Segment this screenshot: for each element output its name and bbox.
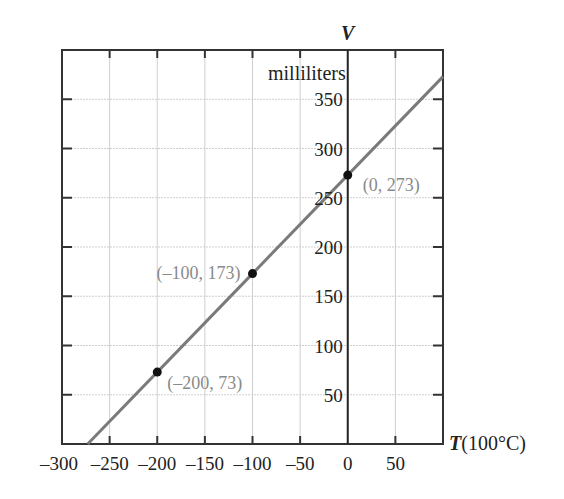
x-tick-label: –150 [185,453,224,474]
data-point [343,171,352,180]
y-tick-label: 350 [314,89,343,110]
chart: (–200, 73)(–100, 173)(0, 273) –300–250–2… [0,0,564,499]
y-tick-label: 200 [314,237,343,258]
x-axis-title: T(100°C) [449,432,526,455]
x-tick-label: 0 [343,453,353,474]
x-tick-label: 50 [386,453,405,474]
y-tick-label: 250 [314,188,343,209]
x-tick-label: –100 [233,453,272,474]
y-tick-labels: 50100150200250300350 [314,89,343,406]
data-line [88,77,443,444]
x-tick-labels: –300–250–200–150–100–50050 [39,453,405,474]
point-label: (–200, 73) [167,373,242,394]
point-label: (–100, 173) [157,263,241,284]
y-tick-label: 150 [314,286,343,307]
y-tick-label: 300 [314,139,343,160]
x-axis-var: T [449,432,462,454]
y-tick-label: 100 [314,336,343,357]
grid-lines [62,50,443,444]
x-tick-label: –50 [285,453,315,474]
data-point [153,368,162,377]
y-axis-title: V [341,22,356,44]
data-points: (–200, 73)(–100, 173)(0, 273) [153,171,420,395]
x-tick-label: –200 [137,453,176,474]
y-tick-label: 50 [324,385,343,406]
y-axis-unit: milliliters [268,62,346,84]
point-label: (0, 273) [363,175,420,196]
x-tick-label: –300 [39,453,78,474]
x-tick-label: –250 [90,453,129,474]
x-axis-unit: (100°C) [461,432,526,455]
data-point [248,269,257,278]
